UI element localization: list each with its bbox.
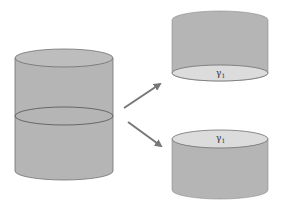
diagram-canvas: γ1 γ1 xyxy=(0,0,284,210)
source-cylinder-body xyxy=(15,58,113,180)
top-piece: γ1 xyxy=(172,11,268,81)
bottom-piece: γ1 xyxy=(172,130,268,199)
arrow-down-right-icon xyxy=(128,122,161,146)
source-cylinder xyxy=(15,49,113,180)
arrow-up-right-icon xyxy=(124,84,160,108)
diagram-svg: γ1 γ1 xyxy=(0,0,284,210)
source-cylinder-top-face xyxy=(15,49,113,67)
